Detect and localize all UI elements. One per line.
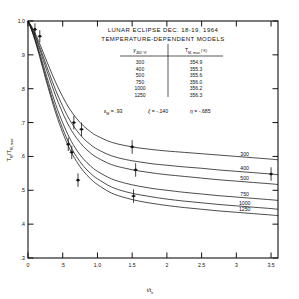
curve-label-750: 750	[240, 191, 249, 197]
table-cell-gamma: 750	[136, 79, 145, 85]
parameter-value: = .93	[109, 108, 122, 114]
data-point	[80, 128, 83, 131]
table-cell-gamma: 300	[136, 59, 145, 65]
data-point	[270, 173, 273, 176]
chart-title: LUNAR ECLIPSE DEC. 18-19, 1964	[108, 27, 219, 33]
x-tick-label: 2.5	[198, 262, 205, 268]
x-tick-label: 2	[165, 262, 168, 268]
y-tick-label: .8	[21, 86, 25, 92]
x-label-sub: e	[151, 291, 153, 295]
table-cell-gamma: 1250	[134, 92, 145, 98]
parameter-1: ξ = -.140	[148, 108, 168, 115]
x-tick-label: 3	[235, 262, 238, 268]
tmax-unit: (°K)	[200, 49, 207, 53]
y-tick-label: .9	[21, 52, 25, 58]
data-point	[132, 195, 135, 198]
data-point	[67, 143, 70, 146]
figure-container: 0.51.01.522.533.5 1.0.9.8.7.6.5.4.3 3004…	[0, 0, 299, 299]
curve-label-300: 300	[240, 151, 249, 157]
curve-label-400: 400	[240, 165, 249, 171]
parameter-value: = -.685	[193, 108, 211, 114]
curve-label-1250: 1250	[239, 206, 251, 212]
y-tick-label: .3	[21, 255, 25, 261]
table-cell-tmax: 356.2	[190, 85, 203, 91]
table-cell-tmax: 356.3	[190, 92, 203, 98]
curve-label-500: 500	[240, 175, 249, 181]
y-tick-label: .4	[21, 221, 25, 227]
table-cell-tmax: 355.6	[190, 72, 203, 78]
x-tick-label: 0	[27, 262, 30, 268]
parameter-2: η = -.685	[190, 108, 211, 114]
data-point	[72, 121, 75, 124]
x-tick-label: .5	[61, 262, 65, 268]
table-cell-tmax: 356.0	[190, 79, 203, 85]
table-cell-gamma: 400	[136, 66, 145, 72]
data-point	[131, 146, 134, 149]
y-tick-label: .6	[21, 153, 25, 159]
y-tick-label: .5	[21, 187, 25, 193]
table-cell-tmax: 355.3	[190, 66, 203, 72]
gamma-subscript: 350 °K	[136, 51, 147, 55]
data-point	[77, 179, 80, 182]
data-point	[134, 169, 137, 172]
x-tick-label: 1.0	[94, 262, 101, 268]
table-cell-tmax: 354.9	[190, 59, 203, 65]
data-point	[34, 28, 37, 31]
y-tick-label: 1.0	[18, 18, 25, 24]
y-tick-label: .7	[21, 120, 25, 126]
x-tick-label: 1.5	[129, 262, 136, 268]
table-cell-gamma: 1000	[134, 85, 145, 91]
parameter-value: = -.140	[150, 108, 168, 114]
x-tick-label: 3.5	[267, 262, 274, 268]
curve-label-1000: 1000	[239, 200, 251, 206]
tmax-subscript: M, max	[188, 51, 200, 55]
data-point	[38, 35, 41, 38]
chart-subtitle: TEMPERATURE-DEPENDENT MODELS	[101, 36, 224, 42]
lunar-eclipse-cooling-chart: 0.51.01.522.533.5 1.0.9.8.7.6.5.4.3 3004…	[0, 0, 299, 299]
data-point	[70, 151, 73, 154]
y-label-sub2: M, max	[10, 138, 14, 150]
table-cell-gamma: 500	[136, 72, 145, 78]
